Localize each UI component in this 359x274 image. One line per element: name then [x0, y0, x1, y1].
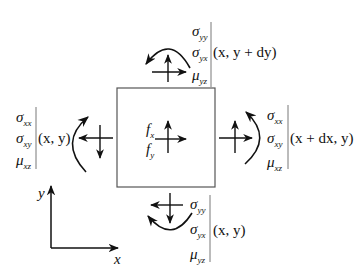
right-coord: (x + dx, y): [290, 131, 353, 146]
right-sigma-xx: σxx: [267, 108, 282, 123]
body-force-y: fy: [146, 142, 154, 157]
top-mu-yz: μyz: [192, 68, 207, 83]
left-coord: (x, y): [38, 131, 71, 146]
top-sigma-yx: σyx: [192, 45, 207, 60]
x-axis-label: x: [114, 252, 121, 267]
left-sigma-xy: σxy: [16, 131, 31, 146]
coordinate-axes-icon: [51, 186, 118, 248]
body-force-arrows-icon: [155, 121, 186, 153]
left-face-arrows-icon: [72, 117, 113, 172]
top-face-arrows-icon: [146, 49, 190, 82]
bottom-face-arrows-icon: [148, 193, 192, 230]
y-axis-label: y: [38, 186, 45, 201]
bottom-coord: (x, y): [213, 223, 246, 238]
top-sigma-yy: σyy: [192, 24, 207, 39]
bottom-mu-yz: μyz: [190, 247, 205, 262]
top-coord: (x, y + dy): [213, 45, 276, 60]
body-force-x: fx: [146, 122, 154, 137]
left-mu-xz: μxz: [16, 153, 31, 168]
bottom-sigma-yx: σyx: [190, 222, 205, 237]
right-face-arrows-icon: [219, 112, 260, 164]
right-sigma-xy: σxy: [267, 131, 282, 146]
element-box: [117, 88, 215, 187]
right-mu-xz: μxz: [267, 155, 282, 170]
left-sigma-xx: σxx: [16, 110, 31, 125]
bottom-sigma-yy: σyy: [190, 197, 205, 212]
